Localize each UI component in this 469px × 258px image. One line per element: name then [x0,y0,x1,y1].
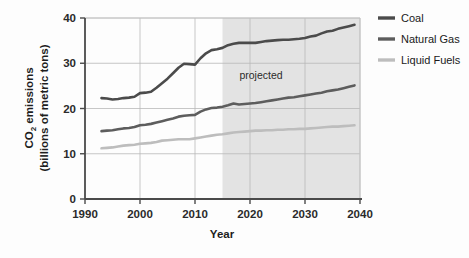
x-tick-label-2010: 2010 [182,208,208,220]
legend-label-liquid-fuels: Liquid Fuels [401,54,461,66]
y-tick-label-0: 0 [70,193,76,205]
x-tick-label-2020: 2020 [237,208,263,220]
legend-label-natural-gas: Natural Gas [401,33,460,45]
legend-label-coal: Coal [401,12,424,24]
y-axis-title-rest: emissions [23,67,35,126]
x-axis-title: Year [210,228,235,240]
x-tick-label-2030: 2030 [292,208,318,220]
y-tick-label-20: 20 [63,103,76,115]
y-axis-title-units: (billions of metric tons) [38,44,50,171]
chart-figure: 010203040 199020002010202020302040 proje… [0,0,469,258]
emissions-line-chart: 010203040 199020002010202020302040 proje… [0,0,469,258]
projected-annotation: projected [239,69,282,81]
y-axis-title-co: CO [23,131,35,148]
x-tick-label-2000: 2000 [127,208,153,220]
x-tick-label-1990: 1990 [72,208,98,220]
x-tick-label-2040: 2040 [347,208,373,220]
y-tick-label-40: 40 [63,12,76,24]
y-tick-label-10: 10 [63,148,76,160]
y-tick-label-30: 30 [63,57,76,69]
